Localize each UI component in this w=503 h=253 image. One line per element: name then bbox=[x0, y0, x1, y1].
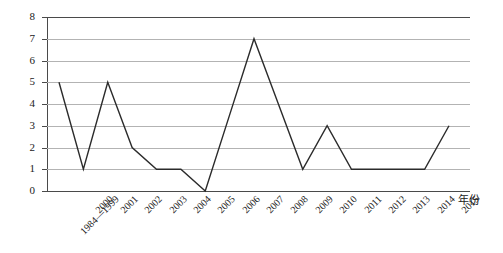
y-tick-mark-2 bbox=[42, 148, 47, 149]
y-tick-mark-7 bbox=[42, 39, 47, 40]
x-tick-label-2011: 2011 bbox=[362, 194, 383, 215]
x-tick-label-2008: 2008 bbox=[289, 194, 310, 215]
x-tick-label-2009: 2009 bbox=[314, 194, 335, 215]
x-tick-label-text: 2005 bbox=[216, 194, 237, 215]
x-tick-label-2001: 2001 bbox=[119, 194, 140, 215]
y-tick-mark-0 bbox=[42, 191, 47, 192]
x-tick-label-2014: 2014 bbox=[435, 194, 456, 215]
x-tick-label-text: 2006 bbox=[240, 194, 261, 215]
x-tick-label-text: 2001 bbox=[119, 194, 140, 215]
x-tick-label-text: 2003 bbox=[167, 194, 188, 215]
x-tick-label-text: 2007 bbox=[265, 194, 286, 215]
y-tick-mark-4 bbox=[42, 104, 47, 105]
x-tick-label-2010: 2010 bbox=[338, 194, 359, 215]
x-tick-label-text: 2008 bbox=[289, 194, 310, 215]
x-tick-label-text: 2010 bbox=[338, 194, 359, 215]
y-tick-mark-5 bbox=[42, 82, 47, 83]
x-tick-label-text: 2014 bbox=[435, 194, 456, 215]
x-tick-label-text: 2011 bbox=[362, 194, 383, 215]
x-tick-label-2013: 2013 bbox=[411, 194, 432, 215]
x-tick-label-2006: 2006 bbox=[240, 194, 261, 215]
x-axis-title: 年份 bbox=[458, 195, 480, 207]
x-tick-label-2007: 2007 bbox=[265, 194, 286, 215]
y-tick-mark-6 bbox=[42, 61, 47, 62]
x-tick-label-text: 2013 bbox=[411, 194, 432, 215]
x-tick-label-2002: 2002 bbox=[143, 194, 164, 215]
x-axis-tick-labels: 1984—19992000200120022003200420052006200… bbox=[0, 0, 503, 253]
line-chart-figure: 876543210 1984—1999200020012002200320042… bbox=[0, 0, 503, 253]
x-tick-label-2004: 2004 bbox=[192, 194, 213, 215]
x-tick-label-text: 2012 bbox=[387, 194, 408, 215]
y-tick-mark-3 bbox=[42, 126, 47, 127]
x-tick-label-text: 2004 bbox=[192, 194, 213, 215]
x-tick-label-text: 2002 bbox=[143, 194, 164, 215]
x-tick-label-2003: 2003 bbox=[167, 194, 188, 215]
x-tick-label-2005: 2005 bbox=[216, 194, 237, 215]
y-tick-mark-8 bbox=[42, 17, 47, 18]
y-tick-mark-1 bbox=[42, 169, 47, 170]
x-tick-label-2012: 2012 bbox=[387, 194, 408, 215]
x-tick-label-text: 2009 bbox=[314, 194, 335, 215]
